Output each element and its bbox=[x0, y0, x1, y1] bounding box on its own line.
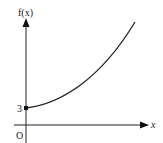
y-intercept-point bbox=[24, 106, 28, 110]
x-axis bbox=[14, 122, 149, 129]
x-axis-label: x bbox=[150, 119, 156, 130]
y-axis bbox=[23, 18, 30, 143]
x-axis-arrow-icon bbox=[140, 122, 149, 129]
y-axis-arrow-icon bbox=[23, 18, 30, 27]
function-graph: f(x) x O 3 bbox=[0, 0, 163, 143]
origin-label: O bbox=[16, 130, 23, 141]
y-intercept-label: 3 bbox=[17, 103, 22, 114]
y-axis-label: f(x) bbox=[18, 7, 33, 19]
function-curve bbox=[26, 22, 135, 108]
